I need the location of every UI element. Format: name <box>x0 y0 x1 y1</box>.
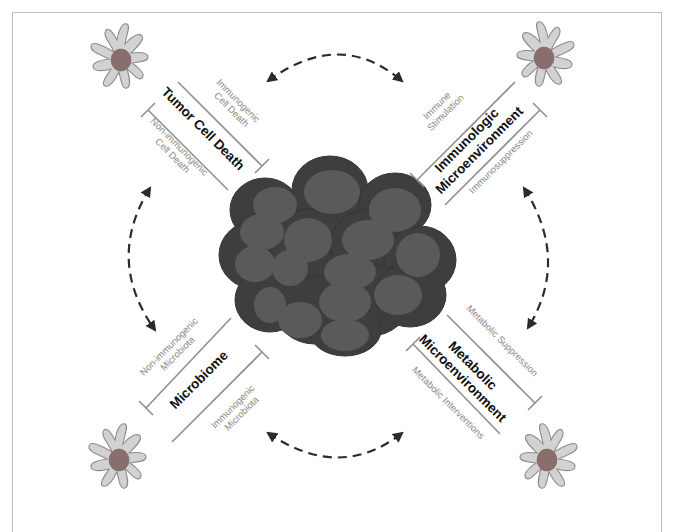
dashed-arrow-bottom <box>268 433 402 458</box>
dashed-arrow-left <box>129 188 155 330</box>
tumor-cell-cluster-icon <box>219 156 456 356</box>
dashed-arrow-right <box>524 188 548 328</box>
svg-text:Immunogenic Microbiota: Immunogenic Microbiota <box>209 381 267 439</box>
dashed-arrow-top <box>268 55 402 82</box>
quadrant-tumor-cell-death: Tumor Cell Death Immunogenic Cell Death … <box>141 77 269 190</box>
dendritic-cell-icon-bottom-left <box>89 424 146 489</box>
quadrant-immunologic-microenvironment: Immunologic Microenvironment Immune Stim… <box>410 82 547 205</box>
quadrant-microbiome: Microbiome Non-immunogenic Microbiota Im… <box>137 313 269 442</box>
dendritic-cell-icon-top-left <box>91 24 148 89</box>
dendritic-cell-icon-top-right <box>517 22 574 87</box>
dendritic-cell-icon-bottom-right <box>520 424 577 489</box>
svg-text:Immune Stimulation: Immune Stimulation <box>417 84 466 133</box>
svg-text:Immunogenic Cell Death: Immunogenic Cell Death <box>207 77 265 135</box>
